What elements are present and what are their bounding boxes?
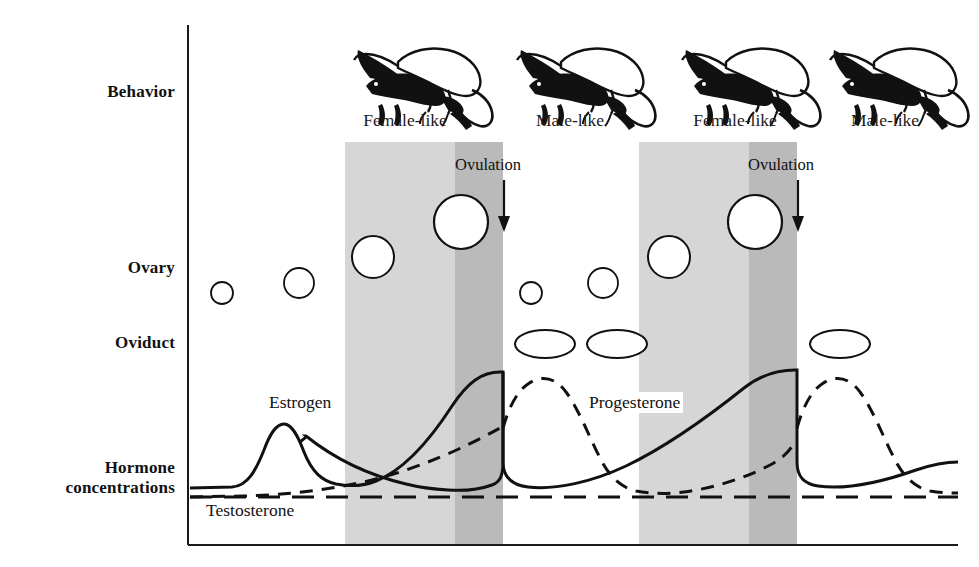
curve-label-estrogen: Estrogen [266, 392, 334, 413]
curve-label-testosterone: Testosterone [203, 500, 297, 521]
estrogen-curve [190, 372, 503, 490]
progesterone-curve-surge-2 [797, 378, 958, 493]
figure-canvas: Behavior Ovary Oviduct Hormone concentra… [0, 0, 979, 567]
estrogen-curve-segment-2 [503, 370, 958, 488]
hormone-curves-layer [0, 0, 979, 567]
curve-label-progesterone: Progesterone [586, 392, 683, 413]
